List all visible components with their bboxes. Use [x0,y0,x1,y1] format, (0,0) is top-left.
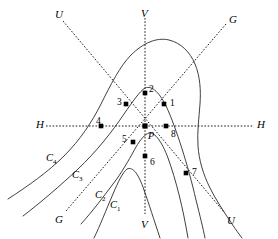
point-label-8: 8 [171,130,176,140]
axis-label-u-start: U [55,9,63,20]
axis-label-h-start: H [36,119,44,130]
axis-label-v-start: V [141,8,148,19]
curve-label-c1: C1 [110,200,121,213]
centre-label-p: P [148,131,154,141]
axis-label-u-end: U [227,215,235,226]
point-marker-8 [164,124,169,129]
point-label-3: 3 [117,98,122,108]
point-label-7: 7 [192,168,197,178]
axis-label-v-end: V [141,219,148,230]
point-marker-p [142,123,147,128]
curve-label-c4: C4 [46,153,57,166]
point-label-6: 6 [150,158,155,168]
point-marker-3 [124,102,129,107]
axis-line-u [63,21,224,212]
point-label-1: 1 [170,99,175,109]
point-label-2: 2 [149,85,154,95]
axis-label-g-end: G [55,214,63,225]
point-marker-6 [143,154,148,159]
point-marker-1 [162,102,167,107]
figure-container: HHVVUUGG12345678PC1C2C3C4 [0,0,278,239]
axis-line-g [66,24,226,211]
axis-label-h-end: H [257,119,265,130]
point-label-4: 4 [96,117,101,127]
point-label-5: 5 [122,135,127,145]
curve-label-c3: C3 [72,170,83,183]
point-marker-2 [143,91,148,96]
axis-label-g-start: G [229,14,237,25]
curve-label-c2: C2 [95,190,106,203]
point-marker-5 [131,140,136,145]
axis-group [46,18,254,214]
contour-c1 [94,168,160,238]
point-marker-7 [184,171,189,176]
